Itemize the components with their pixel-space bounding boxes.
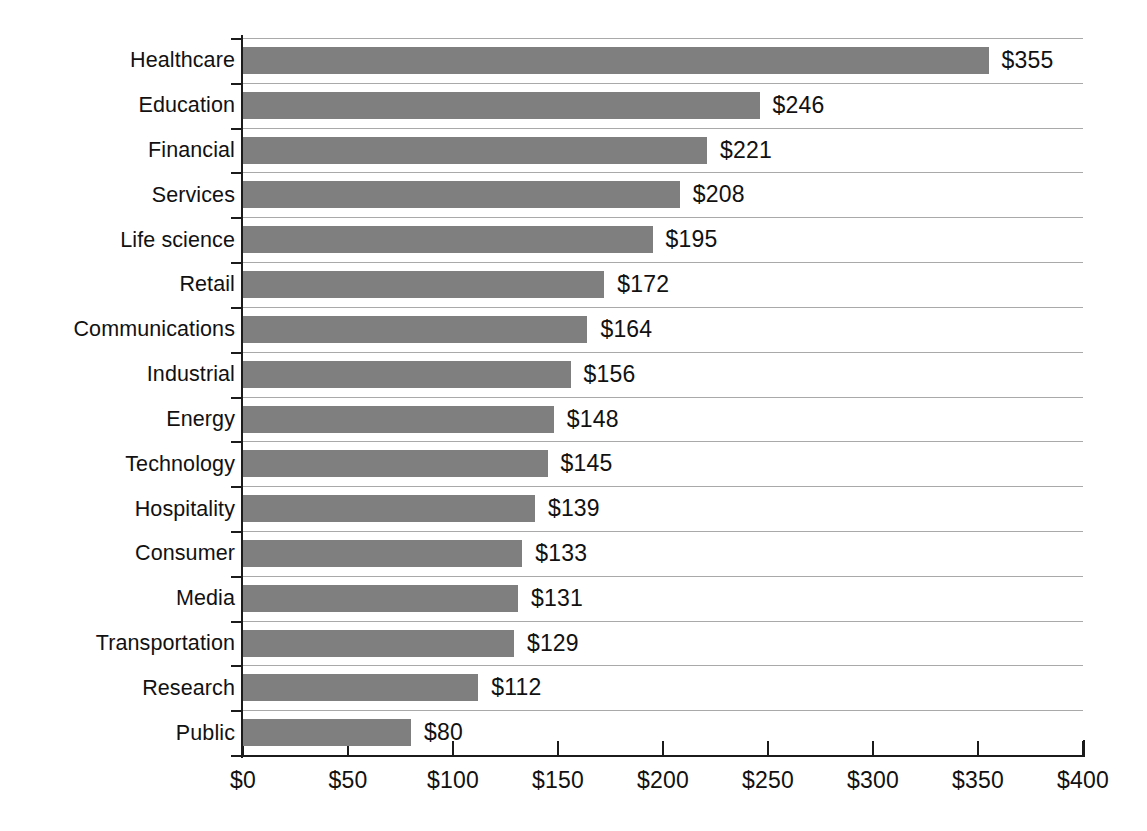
bar-value-label: $164: [600, 312, 652, 346]
bar-row: $156: [243, 352, 1083, 397]
category-label: Public: [0, 718, 235, 748]
bar-row: $148: [243, 397, 1083, 442]
plot-area: $355$246$221$208$195$172$164$156$148$145…: [243, 38, 1083, 755]
bar[interactable]: [243, 226, 653, 253]
category-label: Life science: [0, 225, 235, 255]
bar-value-label: $355: [1002, 43, 1054, 77]
bar-value-label: $139: [548, 491, 600, 525]
bar[interactable]: [243, 585, 518, 612]
x-axis-tick-label: $150: [532, 763, 584, 797]
x-axis-tick-label: $50: [329, 763, 368, 797]
bar[interactable]: [243, 361, 571, 388]
x-axis-tick-label: $400: [1057, 763, 1109, 797]
bar-row: $80: [243, 710, 1083, 755]
bar[interactable]: [243, 271, 604, 298]
bar-value-label: $131: [531, 581, 583, 615]
category-label: Hospitality: [0, 494, 235, 524]
y-axis-category-labels: HealthcareEducationFinancialServicesLife…: [0, 38, 235, 755]
category-label: Consumer: [0, 538, 235, 568]
x-axis-tick-label: $200: [637, 763, 689, 797]
y-axis-tick: [231, 755, 242, 757]
bar-value-label: $145: [561, 446, 613, 480]
bar-row: $131: [243, 576, 1083, 621]
category-label: Services: [0, 180, 235, 210]
bar[interactable]: [243, 630, 514, 657]
x-axis-tick-label: $250: [742, 763, 794, 797]
bar[interactable]: [243, 719, 411, 746]
bar-value-label: $112: [491, 670, 541, 704]
bar-chart: HealthcareEducationFinancialServicesLife…: [0, 0, 1147, 831]
x-axis-tick-label: $350: [952, 763, 1004, 797]
category-label: Media: [0, 583, 235, 613]
bar-value-label: $172: [617, 267, 669, 301]
bar-value-label: $133: [535, 536, 587, 570]
bar-row: $172: [243, 262, 1083, 307]
category-label: Education: [0, 90, 235, 120]
bar-row: $195: [243, 217, 1083, 262]
category-label: Retail: [0, 269, 235, 299]
x-axis-tick-labels: $0$50$100$150$200$250$300$350$400: [0, 763, 1147, 803]
bar-value-label: $156: [584, 357, 636, 391]
bar-row: $112: [243, 665, 1083, 710]
bar-value-label: $129: [527, 626, 579, 660]
bar-row: $145: [243, 441, 1083, 486]
category-label: Technology: [0, 449, 235, 479]
bar-value-label: $246: [773, 88, 825, 122]
x-axis-tick-label: $100: [427, 763, 479, 797]
category-label: Industrial: [0, 359, 235, 389]
bar-value-label: $148: [567, 402, 619, 436]
bar[interactable]: [243, 47, 989, 74]
category-label: Research: [0, 673, 235, 703]
bar-row: $139: [243, 486, 1083, 531]
x-axis-tick-label: $0: [230, 763, 256, 797]
bar[interactable]: [243, 316, 587, 343]
bar-row: $208: [243, 172, 1083, 217]
category-label: Transportation: [0, 628, 235, 658]
bar-row: $133: [243, 531, 1083, 576]
bar[interactable]: [243, 495, 535, 522]
bar-row: $221: [243, 128, 1083, 173]
bar-row: $246: [243, 83, 1083, 128]
bar[interactable]: [243, 181, 680, 208]
bar[interactable]: [243, 540, 522, 567]
bar[interactable]: [243, 406, 554, 433]
category-label: Financial: [0, 135, 235, 165]
category-label: Energy: [0, 404, 235, 434]
bar-value-label: $221: [720, 133, 772, 167]
bar[interactable]: [243, 92, 760, 119]
bar-value-label: $80: [424, 715, 463, 749]
x-axis-tick-label: $300: [847, 763, 899, 797]
bar[interactable]: [243, 450, 548, 477]
bar-row: $355: [243, 38, 1083, 83]
category-label: Healthcare: [0, 45, 235, 75]
bar-value-label: $195: [666, 222, 718, 256]
category-label: Communications: [0, 314, 235, 344]
bar-value-label: $208: [693, 177, 745, 211]
bar-row: $129: [243, 621, 1083, 666]
bar-row: $164: [243, 307, 1083, 352]
bar[interactable]: [243, 674, 478, 701]
bar[interactable]: [243, 137, 707, 164]
